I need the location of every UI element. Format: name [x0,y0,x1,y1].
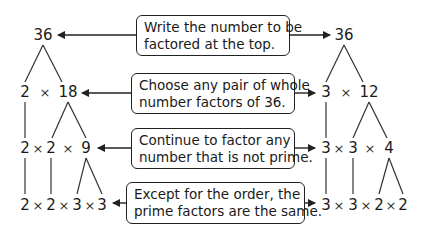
left-l1-factor: 18 [58,84,77,100]
left-l2-factor: 2 [20,140,30,156]
callout-line: Except for the order, the [134,186,297,203]
right-l1-factor: 3 [321,84,331,100]
callout-line: Choose any pair of whole [139,77,287,94]
callout-line: Write the number to be [144,19,282,36]
right-l1-factor: 12 [359,84,378,100]
left-l2-factor: 2 [46,140,56,156]
right-l2-factor: 3 [321,140,331,156]
times-sign: × [334,142,345,156]
times-sign: × [33,142,44,156]
callout-same-prime-factors: Except for the order, the prime factors … [126,182,305,224]
right-l3-factor: 3 [348,197,358,213]
right-l2-factor: 3 [348,140,358,156]
times-sign: × [85,199,96,213]
callout-continue-factoring: Continue to factor any number that is no… [131,128,295,169]
times-sign: × [365,142,376,156]
times-sign: × [334,199,345,213]
right-l3-factor: 2 [374,197,384,213]
left-l3-factor: 3 [97,197,107,213]
times-sign: × [63,142,74,156]
times-sign: × [40,86,51,100]
times-sign: × [59,199,70,213]
left-l3-factor: 2 [20,197,30,213]
left-l1-factor: 2 [20,84,30,100]
right-l3-factor: 3 [321,197,331,213]
times-sign: × [341,86,352,100]
callout-line: number factors of 36. [139,94,287,111]
right-l3-factor: 2 [398,197,408,213]
callout-line: factored at the top. [144,36,282,53]
left-root-number: 36 [33,27,52,43]
times-sign: × [386,199,397,213]
times-sign: × [33,199,44,213]
right-l2-factor: 4 [384,140,394,156]
left-l2-factor: 9 [81,140,91,156]
times-sign: × [361,199,372,213]
left-l3-factor: 3 [72,197,82,213]
left-l3-factor: 2 [46,197,56,213]
callout-line: Continue to factor any [139,132,287,149]
callout-choose-factors: Choose any pair of whole number factors … [131,73,295,114]
right-root-number: 36 [334,27,353,43]
callout-line: number that is not prime. [139,149,287,166]
callout-line: prime factors are the same. [134,203,297,220]
callout-write-number: Write the number to be factored at the t… [136,15,290,56]
